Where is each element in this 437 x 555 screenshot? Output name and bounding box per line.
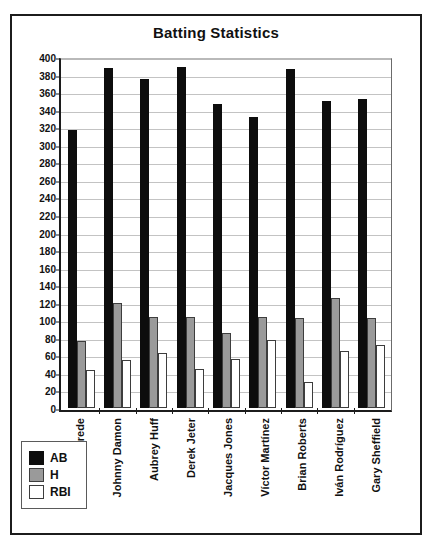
legend-swatch-h xyxy=(29,468,44,482)
x-axis-label: Víctor Martínez xyxy=(259,418,270,497)
y-tick-mark xyxy=(56,181,61,182)
y-tick-label: 100 xyxy=(39,317,56,327)
y-tick-label: 220 xyxy=(39,212,56,222)
y-tick-label: 340 xyxy=(39,107,56,117)
bar-rbi xyxy=(304,382,313,408)
bar-h xyxy=(367,318,376,408)
legend-item[interactable]: AB xyxy=(29,451,80,465)
x-axis-label: Johnny Damon xyxy=(111,418,122,497)
category-tick xyxy=(136,408,137,414)
y-tick-label: 60 xyxy=(45,352,56,362)
y-tick-label: 40 xyxy=(45,370,56,380)
y-tick-label: 160 xyxy=(39,265,56,275)
legend-label: H xyxy=(50,469,59,481)
y-tick-label: 360 xyxy=(39,89,56,99)
y-tick-label: 140 xyxy=(39,282,56,292)
bar-group xyxy=(63,59,99,408)
bar-ab xyxy=(104,68,113,408)
category-tick xyxy=(317,408,318,414)
bar-h xyxy=(186,317,195,408)
legend-item[interactable]: RBI xyxy=(29,485,80,499)
bar-group xyxy=(136,59,172,408)
x-label-cell: Aubrey Huff xyxy=(135,416,172,534)
y-tick-mark xyxy=(56,111,61,112)
bar-group xyxy=(99,59,135,408)
chart-legend: ABHRBI xyxy=(21,441,87,509)
x-label-cell: Gary Sheffield xyxy=(357,416,394,534)
y-tick-mark xyxy=(56,322,61,323)
y-tick-mark xyxy=(56,59,61,60)
x-label-cell: Iván Rodríguez xyxy=(320,416,357,534)
bar-h xyxy=(295,318,304,408)
bar-ab xyxy=(68,130,77,408)
bar-ab xyxy=(213,104,222,409)
category-tick xyxy=(281,408,282,414)
bar-group xyxy=(317,59,353,408)
legend-swatch-rbi xyxy=(29,485,44,499)
bar-ab xyxy=(249,117,258,408)
y-tick-label: 280 xyxy=(39,159,56,169)
y-tick-label: 120 xyxy=(39,300,56,310)
x-axis-label: Iván Rodríguez xyxy=(333,418,344,497)
bar-ab xyxy=(140,79,149,408)
y-tick-mark xyxy=(56,392,61,393)
x-label-cell: Víctor Martínez xyxy=(246,416,283,534)
bar-ab xyxy=(322,101,331,408)
bar-h xyxy=(222,333,231,408)
bar-h xyxy=(77,341,86,408)
x-axis-label: Aubrey Huff xyxy=(148,418,159,481)
bar-h xyxy=(149,317,158,408)
y-tick-label: 300 xyxy=(39,142,56,152)
bar-group xyxy=(245,59,281,408)
x-axis-label: Derek Jeter xyxy=(185,418,196,478)
bar-h xyxy=(113,303,122,408)
x-axis-label: Brian Roberts xyxy=(296,418,307,491)
bar-rbi xyxy=(340,351,349,408)
bar-group xyxy=(354,59,390,408)
chart-figure: Batting Statistics 020406080100120140160… xyxy=(10,14,422,535)
chart-title: Batting Statistics xyxy=(12,24,420,41)
y-tick-label: 180 xyxy=(39,247,56,257)
y-tick-label: 400 xyxy=(39,54,56,64)
bar-group xyxy=(281,59,317,408)
y-tick-mark xyxy=(56,129,61,130)
bar-rbi xyxy=(231,359,240,408)
legend-item[interactable]: H xyxy=(29,468,80,482)
bar-rbi xyxy=(158,353,167,408)
x-axis-label: Jacques Jones xyxy=(222,418,233,497)
y-tick-label: 200 xyxy=(39,230,56,240)
y-tick-mark xyxy=(56,269,61,270)
bar-rbi xyxy=(86,370,95,408)
y-tick-label: 0 xyxy=(50,405,56,415)
category-tick xyxy=(99,408,100,414)
bar-rbi xyxy=(267,340,276,408)
category-tick xyxy=(354,408,355,414)
bar-ab xyxy=(358,99,367,408)
y-tick-mark xyxy=(56,357,61,358)
y-tick-label: 240 xyxy=(39,194,56,204)
bar-rbi xyxy=(122,360,131,408)
plot-wrapper: 0204060801001201401601802002202402602803… xyxy=(59,58,392,412)
category-tick xyxy=(245,408,246,414)
bar-rbi xyxy=(376,345,385,408)
bar-group xyxy=(172,59,208,408)
y-tick-mark xyxy=(56,252,61,253)
y-tick-mark xyxy=(56,410,61,411)
y-tick-mark xyxy=(56,146,61,147)
bar-group xyxy=(208,59,244,408)
bar-groups xyxy=(63,59,390,408)
y-tick-label: 80 xyxy=(45,335,56,345)
y-tick-label: 320 xyxy=(39,124,56,134)
legend-label: AB xyxy=(50,452,67,464)
category-tick xyxy=(172,408,173,414)
y-tick-mark xyxy=(56,76,61,77)
x-axis-label: Gary Sheffield xyxy=(370,418,381,493)
legend-label: RBI xyxy=(50,486,71,498)
y-tick-mark xyxy=(56,234,61,235)
bar-ab xyxy=(177,67,186,408)
x-label-cell: Derek Jeter xyxy=(172,416,209,534)
x-label-cell: Jacques Jones xyxy=(209,416,246,534)
y-tick-mark xyxy=(56,304,61,305)
y-tick-label: 260 xyxy=(39,177,56,187)
bar-h xyxy=(331,298,340,408)
